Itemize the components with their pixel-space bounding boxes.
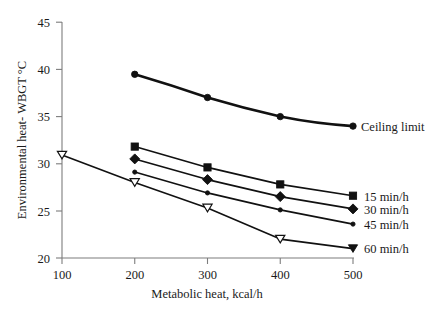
series-30-point-200 [130, 154, 140, 164]
series-45-label: 45 min/h [364, 218, 410, 232]
series-30-point-300 [203, 175, 213, 185]
y-axis-ticks: 20 25 30 35 40 45 [38, 16, 63, 266]
y-tick-label-40: 40 [38, 63, 51, 77]
chart-figure: 20 25 30 35 40 45 100 200 300 400 500 Me… [0, 0, 432, 313]
series-45-point-400 [278, 208, 282, 212]
ceiling-limit-path [135, 74, 353, 126]
y-axis-title: Environmental heat- WBGT °C [15, 61, 29, 219]
series-60-point-300 [203, 204, 212, 212]
series-60-point-100 [57, 151, 66, 159]
x-axis-title: Metabolic heat, kcal/h [151, 287, 263, 301]
series-30-point-500 [348, 204, 358, 214]
series-60-point-200 [130, 179, 139, 187]
series-ceiling-limit: Ceiling limit [132, 71, 426, 134]
series-45-point-500 [351, 222, 355, 226]
x-axis-ticks: 100 200 300 400 500 [53, 258, 363, 282]
y-tick-label-30: 30 [38, 157, 51, 171]
y-tick-label-45: 45 [38, 16, 51, 30]
series-30-point-400 [275, 192, 285, 202]
series-15-point-200 [131, 143, 138, 150]
y-tick-label-20: 20 [38, 252, 51, 266]
ceiling-limit-point-300 [204, 94, 210, 100]
x-tick-label-100: 100 [53, 268, 72, 282]
line-chart-canvas: 20 25 30 35 40 45 100 200 300 400 500 Me… [0, 0, 432, 313]
x-tick-label-300: 300 [198, 268, 217, 282]
series-45-point-200 [133, 170, 137, 174]
x-tick-label-400: 400 [271, 268, 290, 282]
ceiling-limit-point-200 [132, 71, 138, 77]
axes-group [62, 22, 354, 258]
series-45-point-300 [205, 191, 209, 195]
series-60-min-per-hour: 60 min/h [57, 151, 409, 255]
x-tick-label-200: 200 [125, 268, 144, 282]
ceiling-limit-label: Ceiling limit [361, 120, 425, 134]
series-15-point-300 [204, 164, 211, 171]
series-45-path [135, 172, 353, 224]
series-15-point-500 [349, 192, 356, 199]
y-tick-label-25: 25 [38, 205, 51, 219]
ceiling-limit-point-400 [277, 113, 283, 119]
ceiling-limit-point-500 [350, 123, 356, 129]
series-15-point-400 [277, 181, 284, 188]
series-15-label: 15 min/h [364, 190, 410, 204]
x-tick-label-500: 500 [344, 268, 363, 282]
series-30-label: 30 min/h [364, 203, 410, 217]
series-60-label: 60 min/h [364, 242, 410, 256]
y-tick-label-35: 35 [38, 110, 51, 124]
